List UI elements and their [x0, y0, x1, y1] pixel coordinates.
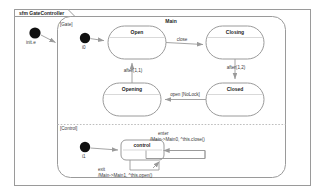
main-state-title: Main [165, 19, 176, 24]
region-label-gate: [Gate] [60, 23, 73, 28]
frame-title: sfm GateController [19, 11, 64, 16]
state-opening-label: Opening [122, 87, 142, 92]
transition-label-exit-action: /Main->Main1, ^this.open() [98, 174, 152, 179]
state-control-label: control [134, 143, 151, 148]
state-machine-diagram: sfm GateController Main init.e [Gate] [C… [0, 0, 325, 195]
transition-label-exit-event: exit [98, 168, 105, 173]
control-initial-label: i1 [82, 155, 86, 160]
state-closed-label: Closed [227, 87, 244, 92]
gate-initial-pseudostate[interactable] [80, 33, 90, 43]
control-initial-pseudostate[interactable] [80, 142, 90, 152]
diagram-canvas [0, 0, 325, 195]
region-label-control: [Control] [60, 127, 77, 132]
state-open-label: Open [131, 30, 144, 35]
transition-label-after-1-1: after(1,1) [124, 69, 143, 74]
gate-initial-label: i0 [82, 46, 86, 51]
outer-initial-label: init.e [26, 41, 36, 46]
transition-label-enter-event: enter [158, 132, 168, 137]
transition-label-after-1-2: after(1,2) [227, 66, 246, 71]
transition-label-close: close [177, 38, 188, 43]
outer-initial-pseudostate[interactable] [29, 27, 40, 38]
state-closing-label: Closing [226, 30, 244, 35]
transition-label-enter-action: /Main->Main0, ^this.close() [150, 138, 205, 143]
transition-label-open-nolock: open [NoLock] [170, 93, 200, 98]
